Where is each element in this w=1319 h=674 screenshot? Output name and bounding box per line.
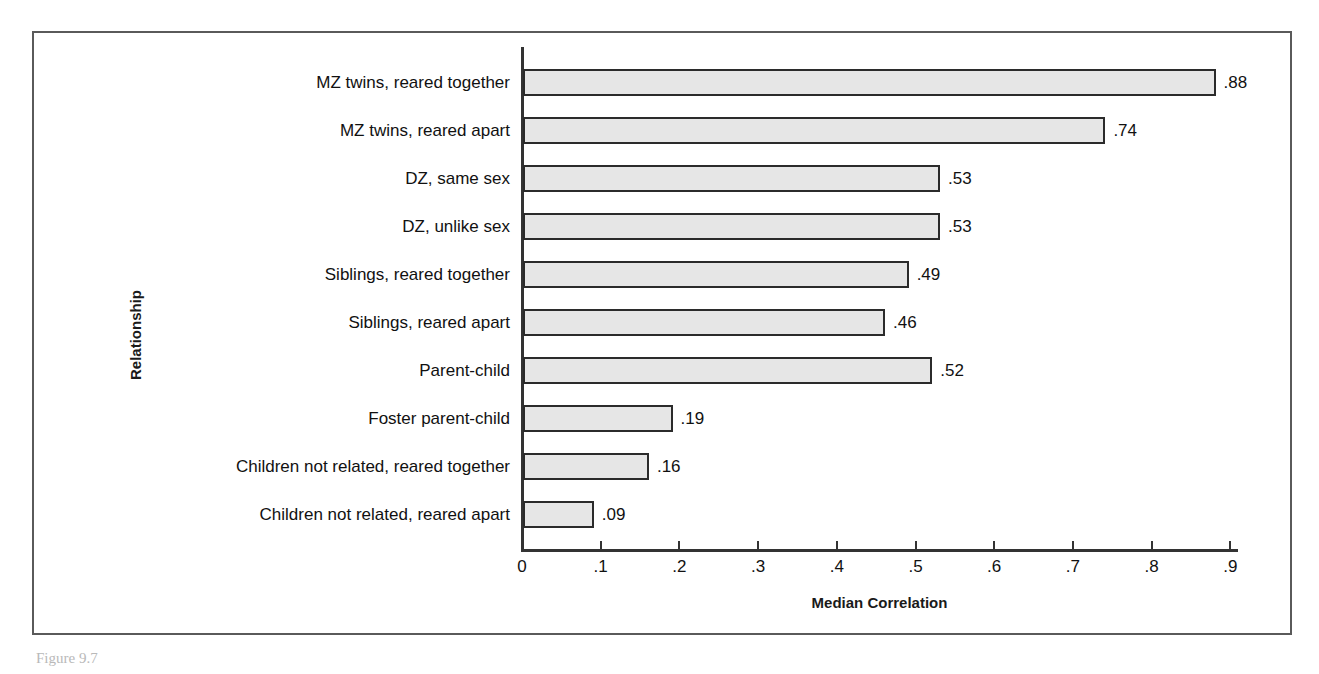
bar-row[interactable]: .53 [523,154,972,202]
x-axis-tick-label: 0 [517,558,526,575]
x-axis-tick [915,541,917,552]
bar-row[interactable]: .16 [523,442,681,490]
bar-value-label: .88 [1224,74,1248,91]
bar[interactable] [523,309,885,336]
bar-chart-plot-area: MZ twins, reared together.88MZ twins, re… [521,47,1238,549]
figure-caption: Figure 9.7 [36,650,98,667]
bar-row[interactable]: .19 [523,394,704,442]
category-label: DZ, same sex [405,170,510,187]
bar-value-label: .53 [948,218,972,235]
bar-value-label: .46 [893,314,917,331]
category-label: Siblings, reared apart [348,314,510,331]
bar[interactable] [523,261,909,288]
x-axis-tick [836,541,838,552]
bar-row[interactable]: .49 [523,250,940,298]
x-axis-tick-label: .7 [1066,558,1080,575]
category-label: MZ twins, reared apart [340,122,510,139]
bar[interactable] [523,357,932,384]
x-axis-tick-label: .2 [672,558,686,575]
bar-value-label: .53 [948,170,972,187]
figure-frame: Relationship MZ twins, reared together.8… [32,31,1292,635]
bar[interactable] [523,69,1216,96]
y-axis-title: Relationship [120,33,150,637]
bar-row[interactable]: .09 [523,490,625,538]
bar-value-label: .74 [1113,122,1137,139]
x-axis-tick-label: .8 [1145,558,1159,575]
bar-row[interactable]: .88 [523,58,1247,106]
bar[interactable] [523,213,940,240]
x-axis-tick [757,541,759,552]
bar-value-label: .09 [602,506,626,523]
bar-value-label: .16 [657,458,681,475]
x-axis-tick-label: .6 [987,558,1001,575]
bar-row[interactable]: .74 [523,106,1137,154]
category-label: Siblings, reared together [325,266,510,283]
x-axis-tick [1151,541,1153,552]
x-axis-tick [678,541,680,552]
bar[interactable] [523,453,649,480]
x-axis-tick-label: .9 [1223,558,1237,575]
category-label: Children not related, reared together [236,458,510,475]
bar-value-label: .19 [681,410,705,427]
x-axis-tick [600,541,602,552]
x-axis-tick [993,541,995,552]
category-label: Children not related, reared apart [260,506,510,523]
x-axis-tick-label: .4 [830,558,844,575]
bar-row[interactable]: .46 [523,298,917,346]
bar-value-label: .49 [917,266,941,283]
x-axis-tick-label: .3 [751,558,765,575]
x-axis-line [521,549,1238,552]
category-label: DZ, unlike sex [402,218,510,235]
category-label: Foster parent-child [368,410,510,427]
bar[interactable] [523,117,1105,144]
bar-value-label: .52 [940,362,964,379]
x-axis-tick-label: .1 [594,558,608,575]
bar[interactable] [523,405,673,432]
bar-row[interactable]: .52 [523,346,964,394]
x-axis-tick [1072,541,1074,552]
x-axis-title: Median Correlation [521,594,1238,611]
x-axis-tick [1229,541,1231,552]
x-axis-tick-label: .5 [908,558,922,575]
bar[interactable] [523,165,940,192]
category-label: Parent-child [419,362,510,379]
bar[interactable] [523,501,594,528]
bar-row[interactable]: .53 [523,202,972,250]
category-label: MZ twins, reared together [316,74,510,91]
